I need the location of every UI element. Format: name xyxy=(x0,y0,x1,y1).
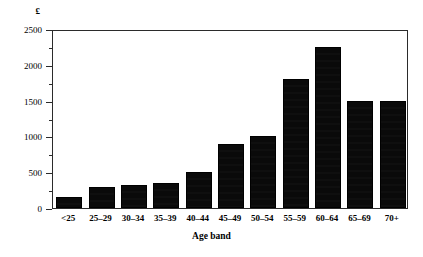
bar xyxy=(347,101,373,208)
x-axis-title: Age band xyxy=(0,231,423,242)
y-axis-tick-label: 500 xyxy=(0,169,42,178)
y-axis-tick-label: 2500 xyxy=(0,26,42,35)
x-axis-tick-label: 55–59 xyxy=(279,213,311,223)
y-axis-tick-label: 1500 xyxy=(0,98,42,107)
y-axis-tick-major xyxy=(46,209,52,210)
x-axis-tick-label: 40–44 xyxy=(181,213,213,223)
bar xyxy=(89,187,115,208)
x-axis-tick-label: 50–54 xyxy=(246,213,278,223)
bar xyxy=(315,47,341,208)
bar-chart-figure: £ 05001000150020002500 <2525–2930–3435–3… xyxy=(0,0,423,257)
bar xyxy=(121,185,147,208)
x-axis-tick-label: 65–69 xyxy=(343,213,375,223)
x-axis-tick-label: <25 xyxy=(52,213,84,223)
bar xyxy=(380,101,406,208)
y-axis-tick-label: 2000 xyxy=(0,62,42,71)
x-axis-tick-label: 60–64 xyxy=(311,213,343,223)
x-axis-tick-label: 70+ xyxy=(376,213,408,223)
bar xyxy=(186,172,212,208)
bar xyxy=(218,144,244,208)
x-axis-tick-label: 25–29 xyxy=(84,213,116,223)
x-axis-tick-label: 30–34 xyxy=(117,213,149,223)
x-axis-tick-label: 45–49 xyxy=(214,213,246,223)
bar xyxy=(153,183,179,208)
plot-area xyxy=(52,30,408,209)
bar xyxy=(56,197,82,208)
bars-layer xyxy=(53,31,407,208)
x-axis-tick-label: 35–39 xyxy=(149,213,181,223)
bar xyxy=(250,136,276,208)
y-axis-tick-label: 1000 xyxy=(0,133,42,142)
bar xyxy=(283,79,309,208)
y-axis-unit-label: £ xyxy=(14,6,40,16)
y-axis-tick-label: 0 xyxy=(0,205,42,214)
